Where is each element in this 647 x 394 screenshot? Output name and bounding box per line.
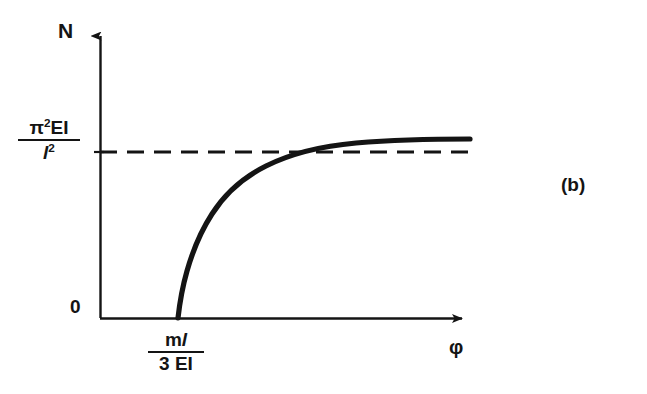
x-axis-label: φ	[449, 337, 463, 357]
figure-container: N 0 π2EI l2 ml 3 EI φ (b)	[0, 0, 647, 394]
buckling-curve	[178, 139, 470, 318]
y-axis-label: N	[58, 20, 73, 41]
x-tick-numerator: ml	[165, 330, 187, 350]
y-asymptote-denominator: l2	[43, 142, 55, 163]
x-tick-denominator: 3 EI	[159, 354, 193, 374]
x-tick-value-label: ml 3 EI	[148, 330, 204, 374]
panel-label: (b)	[561, 175, 585, 194]
origin-label: 0	[70, 297, 81, 316]
y-asymptote-value-label: π2EI l2	[18, 117, 80, 164]
y-asymptote-numerator: π2EI	[29, 117, 68, 138]
plot-canvas	[0, 0, 647, 394]
